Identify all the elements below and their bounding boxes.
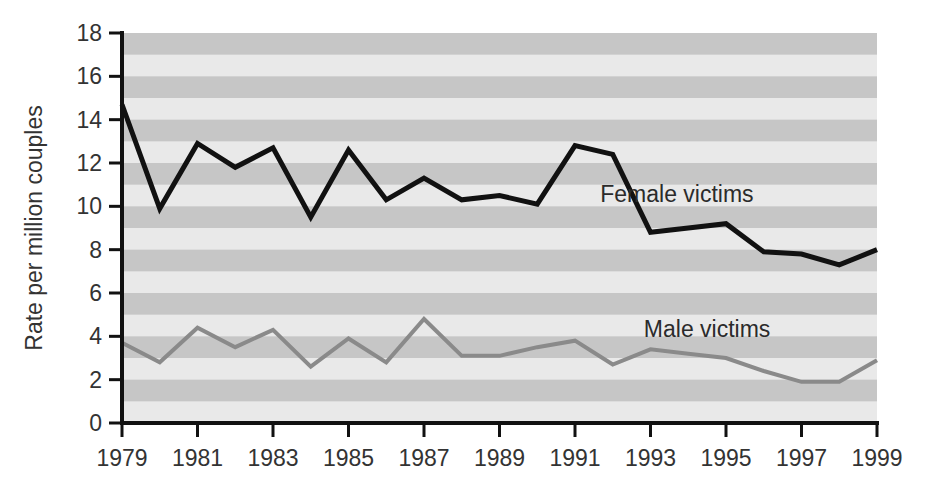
- y-tick-label: 12: [76, 150, 102, 176]
- y-tick-label: 6: [89, 280, 102, 306]
- series-label-male-victims: Male victims: [644, 316, 771, 342]
- y-axis-title: Rate per million couples: [21, 105, 47, 350]
- chart-band: [122, 120, 877, 142]
- y-tick-label: 8: [89, 237, 102, 263]
- chart-band: [122, 380, 877, 402]
- y-tick-label: 4: [89, 323, 102, 349]
- background-bands: [122, 33, 877, 423]
- x-tick-label: 1979: [96, 445, 147, 471]
- chart-container: 024681012141618 197919811983198519871989…: [0, 0, 946, 482]
- y-axis-title-text: Rate per million couples: [21, 105, 47, 350]
- y-tick-label: 0: [89, 410, 102, 436]
- series-label-female-victims: Female victims: [600, 181, 753, 207]
- x-tick-label: 1993: [625, 445, 676, 471]
- y-tick-label: 18: [76, 20, 102, 46]
- x-tick-label: 1991: [549, 445, 600, 471]
- y-tick-label: 2: [89, 367, 102, 393]
- y-tick-label: 14: [76, 107, 102, 133]
- x-tick-label: 1985: [323, 445, 374, 471]
- x-tick-label: 1995: [700, 445, 751, 471]
- x-tick-label: 1989: [474, 445, 525, 471]
- y-tick-label: 16: [76, 63, 102, 89]
- chart-band: [122, 33, 877, 55]
- line-chart: 024681012141618 197919811983198519871989…: [0, 0, 946, 482]
- x-tick-label: 1999: [851, 445, 902, 471]
- x-tick-label: 1981: [172, 445, 223, 471]
- x-tick-label: 1987: [398, 445, 449, 471]
- chart-band: [122, 293, 877, 315]
- y-tick-label: 10: [76, 193, 102, 219]
- x-tick-label: 1997: [776, 445, 827, 471]
- chart-band: [122, 206, 877, 228]
- x-tick-label: 1983: [247, 445, 298, 471]
- chart-band: [122, 76, 877, 98]
